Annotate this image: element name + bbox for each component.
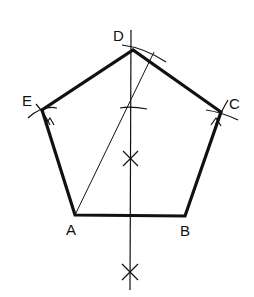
vertex-label-c: C (229, 96, 240, 111)
vertex-label-e: E (22, 93, 32, 108)
construction-line (75, 52, 154, 215)
pentagon-outline (42, 50, 221, 216)
vertex-label-d: D (113, 28, 124, 43)
pentagon-construction-diagram: A B C D E (0, 0, 254, 297)
arc-mark-center (120, 107, 147, 109)
diagram-canvas (0, 0, 254, 297)
vertex-label-a: A (66, 222, 76, 237)
vertex-label-b: B (180, 223, 190, 238)
perpendicular-bisector (130, 30, 131, 290)
